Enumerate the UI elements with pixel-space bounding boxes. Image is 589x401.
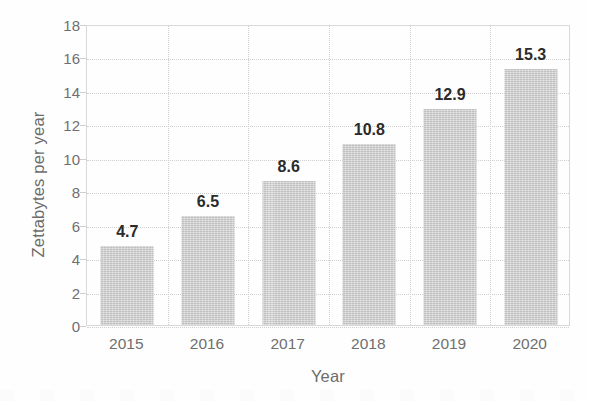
bar-group: 4.7 <box>87 26 168 325</box>
bars-container: 4.76.58.610.812.915.3 <box>87 26 569 325</box>
y-tick-label: 2 <box>48 285 80 300</box>
x-tick-label: 2019 <box>432 336 466 352</box>
horizontal-gridline <box>87 327 569 328</box>
bar-value-label: 6.5 <box>197 194 219 210</box>
bar[interactable] <box>423 109 476 325</box>
bar[interactable] <box>101 246 154 325</box>
x-axis-title: Year <box>86 367 570 386</box>
bar[interactable] <box>504 69 557 325</box>
bar-group: 12.9 <box>410 26 491 325</box>
bar-chart: Zettabytes per year 024681012141618 4.76… <box>0 0 589 401</box>
bar[interactable] <box>262 181 315 325</box>
bar-group: 15.3 <box>490 26 571 325</box>
bar[interactable] <box>343 144 396 325</box>
x-axis-tick-labels: 201520162017201820192020 <box>86 336 570 360</box>
y-axis-tick-labels: 024681012141618 <box>48 25 80 326</box>
y-tick-label: 4 <box>48 252 80 267</box>
bar-group: 6.5 <box>168 26 249 325</box>
y-axis-title: Zettabytes per year <box>29 55 48 315</box>
y-tick-label: 18 <box>48 18 80 33</box>
y-tick-label: 14 <box>48 84 80 99</box>
bar-value-label: 4.7 <box>116 224 138 240</box>
y-tick-label: 10 <box>48 151 80 166</box>
x-tick-label: 2018 <box>351 336 385 352</box>
y-tick-label: 12 <box>48 118 80 133</box>
y-tick-label: 0 <box>48 319 80 334</box>
x-tick-label: 2016 <box>190 336 224 352</box>
y-tick-label: 16 <box>48 51 80 66</box>
y-tick-mark <box>80 326 86 327</box>
x-tick-label: 2020 <box>512 336 546 352</box>
bar-value-label: 10.8 <box>354 122 385 138</box>
bar[interactable] <box>181 216 234 325</box>
plot-area: 4.76.58.610.812.915.3 <box>86 25 570 326</box>
bar-group: 8.6 <box>248 26 329 325</box>
y-tick-label: 6 <box>48 218 80 233</box>
scan-artifact <box>0 390 589 401</box>
bar-value-label: 15.3 <box>515 47 546 63</box>
y-tick-label: 8 <box>48 185 80 200</box>
x-tick-label: 2015 <box>109 336 143 352</box>
bar-value-label: 8.6 <box>278 159 300 175</box>
bar-group: 10.8 <box>329 26 410 325</box>
bar-value-label: 12.9 <box>434 87 465 103</box>
x-tick-label: 2017 <box>270 336 304 352</box>
